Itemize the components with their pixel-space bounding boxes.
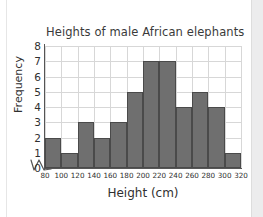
histogram-bar [127,92,143,168]
plot-area [45,46,241,168]
histogram-bar [159,61,175,168]
histogram-bar [192,92,208,168]
histogram-bar [110,122,126,168]
y-axis-label: Frequency [12,40,25,130]
x-axis-line [44,168,242,169]
histogram-bar [225,153,241,168]
histogram-bar [78,122,94,168]
y-tick-label: 7 [27,56,41,67]
page-edge-strip-right [252,0,263,217]
histogram-bar [208,107,224,168]
x-tick-label: 320 [229,172,253,179]
y-tick-labels: 012345678 [24,0,41,217]
chart-title: Heights of male African elephants [46,25,244,39]
y-tick-label: 1 [27,148,41,159]
histogram-bar [143,61,159,168]
bar-series [45,46,241,168]
histogram-bar [94,138,110,169]
y-tick-label: 6 [27,72,41,83]
histogram-bar [176,107,192,168]
histogram-chart: Heights of male African elephants 012345… [0,0,252,217]
y-axis-line [44,44,45,170]
y-tick-label: 3 [27,117,41,128]
y-tick-label: 4 [27,102,41,113]
histogram-bar [61,153,77,168]
y-tick-label: 2 [27,133,41,144]
y-tick-label: 8 [27,41,41,52]
histogram-screenshot: Heights of male African elephants 012345… [0,0,263,217]
gridline-vertical [241,46,242,168]
y-tick-label: 5 [27,87,41,98]
x-axis-label: Height (cm) [45,186,241,200]
